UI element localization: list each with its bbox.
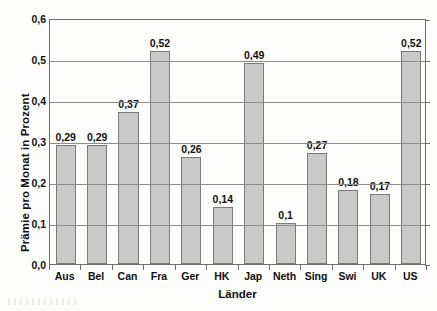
bar-series: 0,290,290,370,520,260,140,490,10,270,180… (50, 20, 425, 264)
bar (213, 207, 233, 264)
bar-chart: Prämie pro Monat in Prozent 0,00,10,20,3… (0, 0, 437, 311)
bar-value-label: 0,18 (338, 177, 358, 188)
gridline (50, 225, 425, 226)
bar-value-label: 0,52 (401, 38, 421, 49)
x-axis-category-label: UK (363, 270, 394, 282)
x-axis-category-label: Bel (80, 270, 111, 282)
bar-value-label: 0,17 (370, 181, 390, 192)
y-axis-tick-mark-right (425, 143, 430, 144)
bar-slot: 0,27 (301, 20, 332, 264)
bar-value-label: 0,29 (87, 132, 107, 143)
bar-value-label: 0,26 (181, 144, 201, 155)
x-axis-category-label: Neth (269, 270, 300, 282)
gridline (50, 61, 425, 62)
bar (150, 51, 170, 264)
bar-slot: 0,18 (333, 20, 364, 264)
bar-slot: 0,26 (176, 20, 207, 264)
bar-slot: 0,29 (50, 20, 81, 264)
y-axis-tick-mark-right (425, 184, 430, 185)
bar-slot: 0,17 (364, 20, 395, 264)
gridline (50, 102, 425, 103)
x-axis-category-label: HK (206, 270, 237, 282)
bar-slot: 0,52 (144, 20, 175, 264)
bar-value-label: 0,37 (118, 99, 138, 110)
y-axis-tick-label: 0,4 (20, 96, 46, 106)
bar-value-label: 0,1 (278, 210, 293, 221)
x-axis-tick-mark (426, 265, 427, 270)
scan-artifact (8, 298, 78, 305)
bar-value-label: 0,29 (55, 132, 75, 143)
bar-slot: 0,29 (81, 20, 112, 264)
y-axis-tick-mark-right (425, 225, 430, 226)
plot-area: 0,290,290,370,520,260,140,490,10,270,180… (49, 19, 426, 265)
bar-slot: 0,37 (113, 20, 144, 264)
gridline (50, 143, 425, 144)
y-axis-tick-mark-right (425, 20, 430, 21)
bar (401, 51, 421, 264)
x-axis-category-label: Ger (175, 270, 206, 282)
y-axis-tick-mark-right (425, 61, 430, 62)
bar (244, 63, 264, 264)
y-axis-tick-label: 0,6 (20, 14, 46, 24)
y-axis-tick-mark-right (425, 102, 430, 103)
x-axis-category-label: US (395, 270, 426, 282)
bar (338, 190, 358, 264)
bar-value-label: 0,27 (307, 140, 327, 151)
y-axis-tick-label: 0,0 (20, 260, 46, 270)
x-axis-category-label: Aus (49, 270, 80, 282)
bar (87, 145, 107, 264)
y-axis-tick-labels: 0,00,10,20,30,40,50,6 (18, 0, 46, 280)
y-axis-tick-label: 0,3 (20, 137, 46, 147)
x-axis-category-label: Fra (143, 270, 174, 282)
bar (181, 157, 201, 264)
bar (56, 145, 76, 264)
gridline (50, 184, 425, 185)
bar-value-label: 0,14 (213, 194, 233, 205)
x-axis-category-label: Swi (332, 270, 363, 282)
bar-slot: 0,14 (207, 20, 238, 264)
x-axis-category-label: Jap (238, 270, 269, 282)
bar-slot: 0,49 (239, 20, 270, 264)
bar-slot: 0,52 (396, 20, 427, 264)
y-axis-tick-label: 0,5 (20, 55, 46, 65)
bar (370, 194, 390, 264)
bar (307, 153, 327, 264)
bar-value-label: 0,49 (244, 50, 264, 61)
bar-value-label: 0,52 (150, 38, 170, 49)
bar (118, 112, 138, 264)
x-axis-category-label: Sing (300, 270, 331, 282)
bar (276, 223, 296, 264)
y-axis-tick-label: 0,1 (20, 219, 46, 229)
bar-slot: 0,1 (270, 20, 301, 264)
x-axis-title: Länder (49, 288, 426, 300)
x-axis-category-label: Can (112, 270, 143, 282)
y-axis-tick-label: 0,2 (20, 178, 46, 188)
